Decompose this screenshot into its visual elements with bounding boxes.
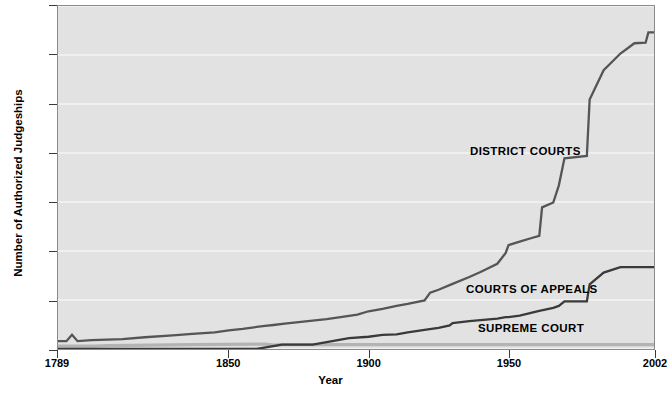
plot-area: [57, 5, 655, 350]
y-tick-mark: [49, 202, 57, 203]
x-tick-label: 1789: [45, 357, 69, 369]
y-tick-mark: [49, 54, 57, 55]
x-tick-label: 1850: [216, 357, 240, 369]
y-tick-mark: [49, 153, 57, 154]
x-tick-label: 1900: [356, 357, 380, 369]
y-tick-mark: [49, 350, 57, 351]
x-tick-label: 1950: [497, 357, 521, 369]
y-tick-mark: [49, 301, 57, 302]
y-tick-mark: [49, 251, 57, 252]
series-label-district-courts: DISTRICT COURTS: [470, 145, 581, 157]
y-tick-mark: [49, 104, 57, 105]
y-axis-title: Number of Authorized Judgeships: [12, 68, 24, 298]
series-line-supreme-court: [58, 344, 654, 346]
series-label-supreme-court: SUPREME COURT: [478, 322, 584, 334]
x-tick-label: 2002: [643, 357, 667, 369]
x-axis-title: Year: [0, 374, 661, 386]
series-label-courts-of-appeals: COURTS OF APPEALS: [466, 283, 598, 295]
plot-svg: [58, 6, 654, 349]
y-tick-mark: [49, 5, 57, 6]
